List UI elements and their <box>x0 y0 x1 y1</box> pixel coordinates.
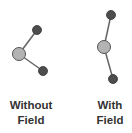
outer-atom <box>107 11 116 20</box>
center-atom <box>13 48 26 61</box>
outer-atom <box>33 26 42 35</box>
molecule-without-field <box>13 26 48 76</box>
molecule-with-field <box>98 11 118 84</box>
label-line: Field <box>6 113 56 128</box>
label-line: Without <box>6 98 56 113</box>
label-line: Field <box>88 113 132 128</box>
outer-atom <box>39 67 48 76</box>
center-atom <box>98 41 111 54</box>
outer-atom <box>109 75 118 84</box>
label-with-field: With Field <box>88 98 132 128</box>
label-without-field: Without Field <box>6 98 56 128</box>
label-line: With <box>88 98 132 113</box>
